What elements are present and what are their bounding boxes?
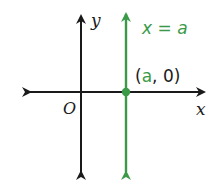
point-separator: , xyxy=(152,66,163,86)
coordinate-plane-diagram: y x O x = a (a, 0) xyxy=(0,0,224,185)
point-x-coord: a xyxy=(142,66,152,86)
y-axis-label: y xyxy=(90,10,101,30)
point-y-coord: 0 xyxy=(163,66,174,86)
equation-label: x = a xyxy=(141,18,188,38)
equation-eq: = xyxy=(152,18,177,38)
equation-rhs: a xyxy=(177,18,187,38)
point-label: (a, 0) xyxy=(135,66,180,86)
point-open-paren: ( xyxy=(135,66,142,86)
point-close-paren: ) xyxy=(174,66,181,86)
origin-label: O xyxy=(63,99,76,118)
point-a-0 xyxy=(122,88,130,96)
x-axis-label: x xyxy=(196,99,206,119)
